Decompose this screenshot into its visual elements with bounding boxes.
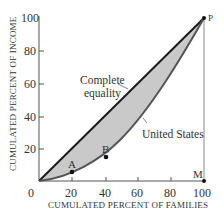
x-axis-title: CUMULATED PERCENT OF FAMILIES	[48, 200, 208, 210]
y-tick-80: 80	[24, 44, 36, 58]
x-tick-40: 40	[99, 186, 111, 200]
us-leader	[143, 118, 147, 123]
y-tick-100: 100	[21, 11, 39, 25]
point-a-label: A	[68, 158, 76, 170]
equality-line	[39, 18, 204, 181]
lorenz-curve-chart: A B P M Complete equality United States …	[0, 0, 224, 220]
point-a-marker	[70, 170, 75, 175]
point-b-label: B	[102, 143, 109, 155]
point-p-label: P	[208, 13, 213, 23]
x-tick-80: 80	[164, 186, 176, 200]
point-p-marker	[202, 16, 206, 20]
us-curve-annotation: United States	[142, 128, 204, 140]
y-axis-title: CUMULATED PERCENT OF INCOME	[8, 16, 18, 171]
x-tick-60: 60	[131, 186, 143, 200]
y-tick-40: 40	[24, 110, 36, 124]
y-ticks	[39, 51, 44, 149]
point-b-marker	[104, 155, 109, 160]
y-tick-60: 60	[24, 77, 36, 91]
x-tick-100: 100	[193, 186, 211, 200]
y-tick-20: 20	[24, 142, 36, 156]
x-ticks	[72, 177, 171, 181]
equality-annotation-line2: equality	[84, 87, 121, 100]
x-tick-20: 20	[65, 186, 77, 200]
point-m-label: M	[193, 168, 203, 180]
x-tick-0: 0	[28, 186, 34, 200]
equality-annotation-line1: Complete	[80, 74, 125, 87]
